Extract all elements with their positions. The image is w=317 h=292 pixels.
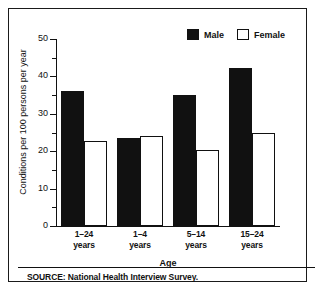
y-axis-title-wrap: Conditions per 100 persons per year — [9, 9, 10, 10]
y-axis-title: Conditions per 100 persons per year — [18, 29, 28, 215]
legend-label-male: Male — [204, 30, 224, 40]
x-category-3-line2: years — [224, 240, 280, 251]
x-category-2-line2: years — [168, 240, 224, 251]
x-category-0-line1: 1–24 — [75, 229, 94, 239]
bar-male-3 — [173, 95, 196, 226]
x-category-3-line1: 15–24 — [240, 229, 263, 239]
x-category-3: 15–24 years — [224, 229, 280, 250]
x-category-0-line2: years — [56, 240, 112, 251]
bar-male-4 — [229, 68, 252, 226]
x-category-0: 1–24 years — [56, 229, 112, 250]
y-tick-label-0: 0 — [22, 221, 48, 230]
x-axis-line — [56, 226, 280, 227]
bar-female-4 — [252, 133, 275, 227]
bar-male-2 — [117, 138, 140, 226]
y-tick-major-0 — [50, 226, 56, 227]
x-axis-categories: 1–24 years 1–4 years 5–14 years 15–24 ye… — [56, 229, 280, 257]
chart-frame: Male Female 50 40 30 — [8, 8, 307, 282]
bar-female-2 — [140, 136, 163, 226]
plot-area: 50 40 30 20 10 0 — [56, 39, 280, 226]
bar-female-1 — [84, 141, 107, 226]
x-category-1-line2: years — [112, 240, 168, 251]
source-note: SOURCE: National Health Interview Survey… — [27, 272, 198, 282]
source-divider — [18, 267, 315, 268]
legend-label-female: Female — [254, 30, 285, 40]
bar-male-1 — [61, 91, 84, 226]
x-category-2-line1: 5–14 — [187, 229, 206, 239]
x-category-1: 1–4 years — [112, 229, 168, 250]
x-category-2: 5–14 years — [168, 229, 224, 250]
bar-group-container — [56, 39, 280, 226]
bar-female-3 — [196, 150, 219, 226]
x-category-1-line1: 1–4 — [133, 229, 147, 239]
chart-figure: Male Female 50 40 30 — [0, 0, 317, 292]
